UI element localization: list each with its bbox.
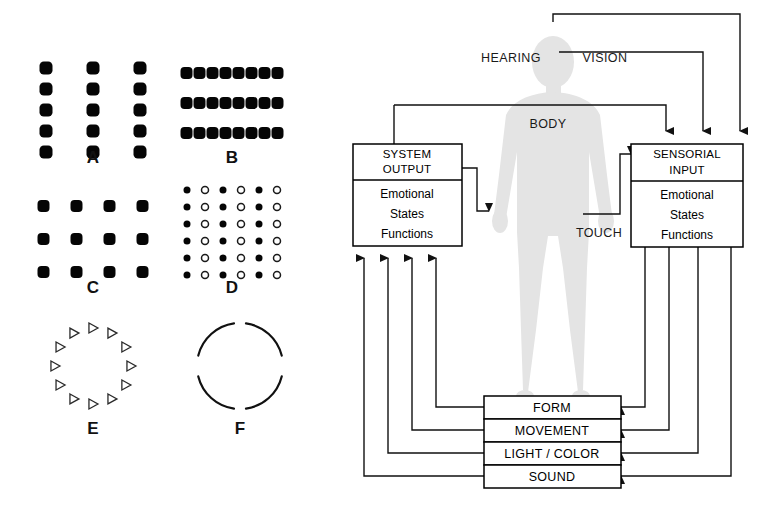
- pattern-dot: [40, 146, 53, 159]
- pattern-dot: [207, 67, 219, 79]
- channel-bar-form[interactable]: FORM: [484, 396, 621, 419]
- canvas-background: [0, 0, 767, 515]
- pattern-dot: [220, 255, 227, 262]
- pattern-dot: [220, 97, 232, 109]
- pattern-dot: [272, 97, 284, 109]
- pattern-dot: [71, 266, 83, 278]
- pattern-d-label: D: [226, 278, 238, 297]
- pattern-dot: [256, 272, 263, 279]
- box-sensorial-input[interactable]: SENSORIAL INPUT Emotional States Functio…: [631, 144, 743, 247]
- pattern-dot: [233, 127, 245, 139]
- pattern-dot: [104, 233, 116, 245]
- pattern-dot: [71, 200, 83, 212]
- channel-bar-movement-label: MOVEMENT: [515, 424, 590, 438]
- pattern-b-label: B: [226, 148, 238, 167]
- channel-bar-sound-label: SOUND: [529, 470, 576, 484]
- pattern-dot: [87, 62, 100, 75]
- pattern-dot: [40, 62, 53, 75]
- flow-label-body: BODY: [529, 117, 566, 131]
- pattern-f-label: F: [235, 419, 245, 438]
- pattern-e-label: E: [87, 419, 98, 438]
- sensorial-input-body-line-2: States: [670, 208, 704, 222]
- flow-label-touch: TOUCH: [576, 226, 622, 240]
- system-output-title-line-2: OUTPUT: [383, 163, 431, 175]
- sensorial-input-title-line-1: SENSORIAL: [653, 148, 721, 160]
- sensorial-input-body-line-3: Functions: [661, 228, 713, 242]
- pattern-dot: [256, 221, 263, 228]
- pattern-dot: [40, 104, 53, 117]
- pattern-dot: [38, 233, 50, 245]
- sensorial-input-title-line-2: INPUT: [669, 164, 705, 176]
- pattern-dot: [272, 67, 284, 79]
- pattern-dot: [246, 97, 258, 109]
- pattern-dot: [137, 233, 149, 245]
- pattern-dot: [220, 67, 232, 79]
- pattern-dot: [194, 97, 206, 109]
- pattern-dot: [256, 187, 263, 194]
- channel-bar-movement[interactable]: MOVEMENT: [484, 419, 621, 442]
- pattern-dot: [207, 97, 219, 109]
- pattern-dot: [184, 221, 191, 228]
- pattern-dot: [134, 104, 147, 117]
- pattern-dot: [194, 67, 206, 79]
- pattern-dot: [233, 97, 245, 109]
- pattern-dot: [104, 200, 116, 212]
- box-system-output[interactable]: SYSTEM OUTPUT Emotional States Functions: [353, 144, 462, 246]
- pattern-dot: [137, 200, 149, 212]
- pattern-dot: [259, 97, 271, 109]
- figure-root: A B C D E F: [0, 0, 767, 515]
- pattern-c-label: C: [87, 278, 99, 297]
- pattern-dot: [40, 125, 53, 138]
- pattern-dot: [181, 67, 193, 79]
- pattern-dot: [256, 255, 263, 262]
- pattern-a-label: A: [87, 148, 99, 167]
- pattern-dot: [207, 127, 219, 139]
- pattern-dot: [259, 67, 271, 79]
- flow-label-hearing: HEARING: [481, 51, 541, 65]
- system-output-body-line-2: States: [390, 207, 424, 221]
- pattern-dot: [134, 62, 147, 75]
- pattern-dot: [220, 238, 227, 245]
- system-output-body-line-1: Emotional: [380, 187, 433, 201]
- pattern-dot: [87, 83, 100, 96]
- flow-label-vision: VISION: [583, 51, 628, 65]
- pattern-dot: [246, 127, 258, 139]
- pattern-dot: [194, 127, 206, 139]
- pattern-dot: [259, 127, 271, 139]
- pattern-dot: [272, 127, 284, 139]
- pattern-dot: [87, 125, 100, 138]
- pattern-dot: [184, 204, 191, 211]
- pattern-dot: [233, 67, 245, 79]
- pattern-dot: [104, 266, 116, 278]
- pattern-dot: [220, 187, 227, 194]
- pattern-dot: [184, 255, 191, 262]
- pattern-dot: [71, 233, 83, 245]
- pattern-dot: [87, 104, 100, 117]
- channel-bar-sound[interactable]: SOUND: [484, 465, 621, 488]
- pattern-dot: [134, 146, 147, 159]
- system-output-body-line-3: Functions: [381, 227, 433, 241]
- pattern-dot: [38, 266, 50, 278]
- channel-bar-light-color-label: LIGHT / COLOR: [504, 447, 599, 461]
- pattern-dot: [181, 127, 193, 139]
- pattern-dot: [256, 238, 263, 245]
- pattern-dot: [220, 221, 227, 228]
- pattern-dot: [184, 272, 191, 279]
- pattern-dot: [220, 204, 227, 211]
- pattern-dot: [220, 127, 232, 139]
- pattern-dot: [40, 83, 53, 96]
- sensorial-input-body-line-1: Emotional: [660, 188, 713, 202]
- pattern-dot: [181, 97, 193, 109]
- channel-bar-light-color[interactable]: LIGHT / COLOR: [484, 442, 621, 465]
- pattern-dot: [246, 67, 258, 79]
- pattern-dot: [137, 266, 149, 278]
- pattern-dot: [134, 83, 147, 96]
- pattern-dot: [256, 204, 263, 211]
- pattern-dot: [184, 238, 191, 245]
- pattern-dot: [38, 200, 50, 212]
- channel-bar-form-label: FORM: [533, 401, 571, 415]
- system-output-title-line-1: SYSTEM: [383, 148, 432, 160]
- pattern-dot: [134, 125, 147, 138]
- pattern-dot: [184, 187, 191, 194]
